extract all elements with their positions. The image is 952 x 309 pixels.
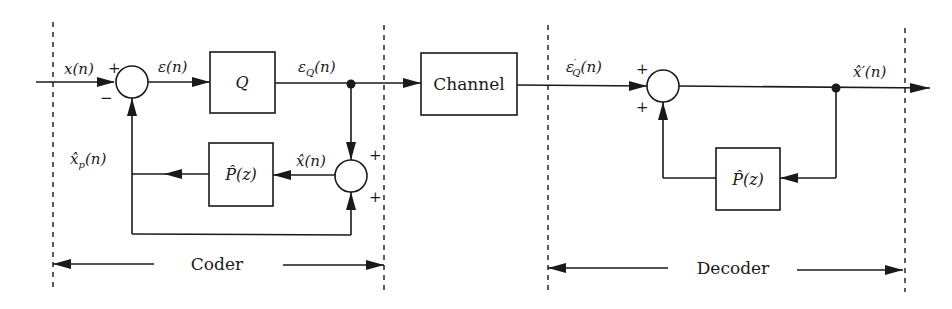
coder-span-left-arrowhead	[53, 259, 71, 269]
decoder-span-right-arrowhead	[885, 265, 903, 275]
received-error-label: ε′Q(n)	[566, 57, 602, 78]
channel-output-line	[517, 85, 647, 86]
predictor-input-arrowhead	[273, 170, 291, 180]
sum1-bottom-arrowhead	[127, 98, 137, 116]
coder-label: Coder	[191, 254, 244, 274]
bottom-feedback-line	[132, 234, 351, 235]
input-arrowhead	[97, 77, 115, 87]
sum2-plus-top: +	[369, 146, 382, 164]
decoder-output-line	[679, 86, 930, 88]
coder-span-right-arrowhead	[366, 260, 384, 270]
sum1-minus-sign: −	[100, 89, 113, 107]
quantized-error-label: εQ(n)	[298, 58, 336, 78]
reconstructed-signal-label: x̂(n)	[296, 152, 326, 170]
sum-junction-3	[647, 70, 679, 102]
sum-junction-2	[335, 160, 367, 192]
error-arrowhead	[192, 77, 210, 87]
prediction-arrowhead	[164, 169, 182, 179]
coder-predictor-label: P̂(z)	[224, 165, 257, 184]
input-signal-label: x(n)	[64, 60, 94, 78]
decoder-label: Decoder	[697, 258, 770, 278]
decoder-predictor-label: P̂(z)	[731, 170, 764, 189]
sum3-plus-bottom: +	[636, 98, 649, 116]
output-signal-label: x̂′(n)	[853, 63, 886, 81]
sum-junction-1	[116, 66, 148, 98]
prediction-signal-label: x̂p(n)	[70, 150, 106, 170]
channel-label: Channel	[433, 74, 505, 94]
dpcm-block-diagram: x(n) + − ε(n) Q εQ(n) + + x̂(n) P̂(z) x̂…	[0, 0, 952, 309]
sum2-plus-bottom: +	[369, 188, 382, 206]
sum3-left-arrowhead	[629, 81, 647, 91]
output-arrowhead	[910, 83, 930, 93]
sum3-plus-top: +	[636, 60, 649, 78]
decoder-span-left-arrowhead	[548, 263, 566, 273]
quantizer-label: Q	[235, 73, 248, 92]
channel-input-arrowhead	[403, 78, 421, 88]
sum2-bottom-arrowhead	[346, 192, 356, 210]
sum3-bottom-arrowhead	[658, 102, 668, 120]
decoder-predictor-input-arrowhead	[780, 173, 798, 183]
error-signal-label: ε(n)	[158, 58, 188, 76]
sum2-top-arrowhead	[346, 142, 356, 160]
